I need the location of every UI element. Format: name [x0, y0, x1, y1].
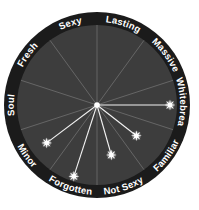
- center-hub: [94, 102, 100, 108]
- radial-chart: LastingMassiveWhitebreadFamiliarNot Sexy…: [0, 0, 199, 210]
- star-icon: [165, 100, 176, 111]
- star-icon: [106, 149, 117, 160]
- star-icon: [68, 171, 79, 182]
- star-icon: [131, 130, 142, 141]
- star-icon: [41, 137, 52, 148]
